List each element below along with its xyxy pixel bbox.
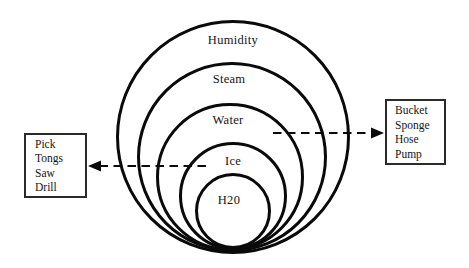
left-box-item: Pick xyxy=(35,137,85,152)
left-box-item: Saw xyxy=(35,166,85,181)
onion-diagram: Humidity Steam Water Ice H20 Pick Tongs … xyxy=(0,0,469,268)
ring-label-h20: H20 xyxy=(218,193,240,208)
ring-label-steam: Steam xyxy=(213,72,246,87)
left-box-item: Tongs xyxy=(35,151,85,166)
ring-label-water: Water xyxy=(212,113,243,128)
right-tools-box: Bucket Sponge Hose Pump xyxy=(385,99,446,165)
right-box-item: Hose xyxy=(395,132,444,147)
ring-h20 xyxy=(195,173,271,249)
left-tools-box: Pick Tongs Saw Drill xyxy=(24,133,87,198)
right-box-item: Bucket xyxy=(395,103,444,118)
right-box-item: Sponge xyxy=(395,118,444,133)
left-box-item: Drill xyxy=(35,180,85,195)
ring-label-ice: Ice xyxy=(225,154,241,169)
ring-label-humidity: Humidity xyxy=(208,33,258,48)
right-arrowhead-icon xyxy=(371,128,384,139)
left-arrowhead-icon xyxy=(88,161,101,172)
right-box-item: Pump xyxy=(395,147,444,162)
